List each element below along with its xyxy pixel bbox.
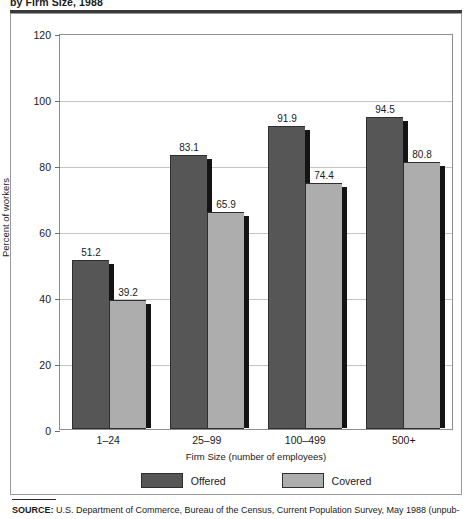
x-axis-category-label: 100–499 <box>256 434 355 446</box>
x-axis-category-label: 1–24 <box>59 434 158 446</box>
x-axis-category-labels: 1–2425–99100–499500+ <box>59 434 453 446</box>
y-axis-tick-label: 100 <box>33 95 51 107</box>
bar-offered[interactable]: 51.2 <box>72 260 109 429</box>
bar-value-label: 94.5 <box>375 104 394 115</box>
y-axis-tick-label: 60 <box>39 227 51 239</box>
bar-slot: 80.8 <box>403 35 440 429</box>
bar-covered[interactable]: 74.4 <box>305 183 342 429</box>
plot-area: 020406080100120 51.239.283.165.991.974.4… <box>59 34 453 430</box>
bar-slot: 65.9 <box>207 35 244 429</box>
bar-group: 94.580.8 <box>354 35 452 429</box>
x-axis-category-label: 25–99 <box>158 434 257 446</box>
y-axis-tick <box>55 431 60 432</box>
bar-slot: 74.4 <box>305 35 342 429</box>
source-divider <box>12 499 56 500</box>
legend-swatch <box>141 473 183 488</box>
bar-covered[interactable]: 65.9 <box>207 212 244 429</box>
y-axis-tick-label: 80 <box>39 161 51 173</box>
bar-value-label: 51.2 <box>81 247 100 258</box>
bar-groups: 51.239.283.165.991.974.494.580.8 <box>60 35 452 429</box>
bar-value-label: 39.2 <box>118 287 137 298</box>
bar-covered[interactable]: 80.8 <box>403 162 440 429</box>
source-note: SOURCE: U.S. Department of Commerce, Bur… <box>12 505 462 515</box>
bar-offered[interactable]: 83.1 <box>170 155 207 429</box>
y-axis-tick-label: 40 <box>39 293 51 305</box>
y-axis-title: Percent of workers <box>0 178 11 257</box>
bar-offered[interactable]: 94.5 <box>366 117 403 429</box>
bar-group: 51.239.2 <box>60 35 158 429</box>
figure-title: by Firm Size, 1988 <box>10 0 103 8</box>
x-axis-title: Firm Size (number of employees) <box>59 451 453 462</box>
bar-value-label: 74.4 <box>314 170 333 181</box>
bar-value-label: 65.9 <box>216 199 235 210</box>
bar-slot: 39.2 <box>109 35 146 429</box>
source-label: SOURCE: <box>12 505 54 515</box>
legend-swatch <box>282 473 324 488</box>
legend-label: Offered <box>191 475 226 487</box>
y-axis-tick-label: 0 <box>45 425 51 437</box>
y-axis-tick-label: 20 <box>39 359 51 371</box>
bar-covered[interactable]: 39.2 <box>109 300 146 429</box>
y-axis-tick-label: 120 <box>33 29 51 41</box>
bar-group: 91.974.4 <box>256 35 354 429</box>
bar-slot: 83.1 <box>170 35 207 429</box>
source-text: U.S. Department of Commerce, Bureau of t… <box>56 505 460 515</box>
bar-value-label: 80.8 <box>412 149 431 160</box>
bar-group: 83.165.9 <box>158 35 256 429</box>
bar-value-label: 91.9 <box>277 113 296 124</box>
bar-slot: 91.9 <box>268 35 305 429</box>
bar-value-label: 83.1 <box>179 142 198 153</box>
legend-item-covered[interactable]: Covered <box>282 473 372 488</box>
bar-offered[interactable]: 91.9 <box>268 126 305 429</box>
bar-slot: 51.2 <box>72 35 109 429</box>
legend-label: Covered <box>332 475 372 487</box>
bar-slot: 94.5 <box>366 35 403 429</box>
legend-item-offered[interactable]: Offered <box>141 473 226 488</box>
chart-container: Percent of workers 020406080100120 51.23… <box>10 13 462 495</box>
chart-legend: OfferedCovered <box>59 473 453 488</box>
x-axis-category-label: 500+ <box>355 434 454 446</box>
